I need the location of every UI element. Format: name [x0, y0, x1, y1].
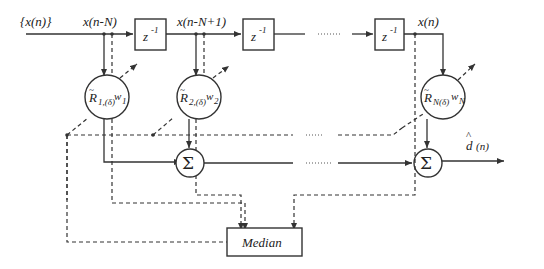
input-label: {x(n)} — [20, 14, 52, 29]
svg-text:-1: -1 — [390, 25, 398, 35]
median-block: Median — [227, 228, 302, 256]
delay-block-3: z -1 — [375, 19, 404, 50]
svg-text:2: 2 — [214, 96, 219, 106]
weight-node-n: R ~ N(δ) w N — [421, 75, 466, 119]
adaptive-filter-diagram: z -1 z -1 z -1 {x(n)} x(n-N) x(n-N+1) x(… — [0, 0, 544, 269]
svg-text:1: 1 — [122, 96, 127, 106]
summer-n: Σ — [414, 149, 442, 177]
svg-text:Σ: Σ — [420, 153, 432, 173]
delay-block-2: z -1 — [243, 19, 274, 50]
output-label: d ^ (n) — [466, 129, 489, 153]
adapt-arrow-n — [458, 64, 475, 80]
svg-text:w: w — [451, 90, 459, 102]
svg-text:-1: -1 — [151, 25, 159, 35]
adapt-arrow-1 — [120, 64, 137, 78]
svg-text:z: z — [250, 29, 256, 44]
svg-text:N(δ): N(δ) — [432, 97, 449, 107]
svg-text:~: ~ — [424, 85, 429, 95]
svg-text:N: N — [458, 96, 466, 106]
tap-n-line — [404, 34, 443, 76]
svg-text:(n): (n) — [476, 140, 489, 153]
svg-text:w: w — [114, 90, 122, 102]
delay-block-1: z -1 — [135, 19, 166, 50]
tap-n-signal: x(n) — [417, 14, 439, 29]
svg-text:1,(δ): 1,(δ) — [98, 97, 115, 107]
median-feedback — [67, 135, 227, 242]
svg-text:w: w — [206, 90, 214, 102]
adapt-arrow-2 — [213, 66, 229, 78]
weight-node-1: R ~ 1,(δ) w 1 — [85, 75, 129, 119]
svg-text:z: z — [381, 29, 387, 44]
weight-node-2: R ~ 2,(δ) w 2 — [177, 75, 221, 119]
svg-text:~: ~ — [180, 85, 185, 95]
svg-text:-1: -1 — [259, 25, 267, 35]
tap-2-signal: x(n-N+1) — [176, 14, 226, 29]
summer-1: Σ — [176, 149, 204, 177]
svg-text:Median: Median — [241, 235, 282, 250]
svg-text:z: z — [142, 29, 148, 44]
svg-text:^: ^ — [466, 129, 472, 141]
svg-text:2,(δ): 2,(δ) — [189, 97, 206, 107]
svg-text:~: ~ — [89, 85, 94, 95]
svg-text:Σ: Σ — [182, 153, 194, 173]
tap-1-signal: x(n-N) — [82, 14, 117, 29]
